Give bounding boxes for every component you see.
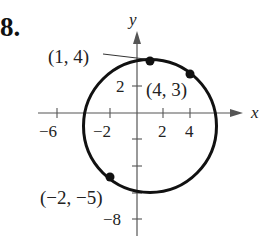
y-tick-label: −8 xyxy=(103,210,121,229)
y-axis-label: y xyxy=(127,10,137,29)
x-tick-label: −6 xyxy=(39,122,57,141)
point-label: (−2, −5) xyxy=(40,187,103,209)
point-4-3 xyxy=(186,70,195,79)
circle-graph: x −6 −2 2 4 y 2 −8 (1, 4) (4, 3) (−2, −5… xyxy=(0,0,272,244)
x-tick-label: 2 xyxy=(158,122,167,141)
x-tick-label: −2 xyxy=(93,122,111,141)
x-axis-label: x xyxy=(250,103,259,122)
point-neg2-neg5 xyxy=(106,173,115,182)
leader-line xyxy=(103,54,145,59)
point-label: (1, 4) xyxy=(48,46,89,68)
x-axis: x −6 −2 2 4 xyxy=(38,103,259,141)
data-points xyxy=(106,57,195,182)
x-tick-label: 4 xyxy=(185,122,194,141)
point-label: (4, 3) xyxy=(146,79,187,101)
point-1-4 xyxy=(146,57,155,66)
y-tick-label: 2 xyxy=(116,77,125,96)
